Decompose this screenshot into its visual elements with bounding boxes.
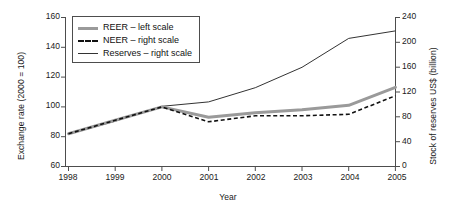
legend-label-reer: REER – left scale: [103, 22, 174, 32]
y-axis-right-ticks: [396, 18, 400, 167]
chart-legend: REER – left scale NEER – right scale Res…: [72, 16, 200, 63]
y-axis-left-ticks: [61, 18, 65, 167]
legend-swatch-reserves-icon: [78, 48, 98, 58]
legend-item-neer: NEER – right scale: [78, 33, 192, 46]
x-axis-ticks: [69, 167, 396, 171]
legend-item-reer: REER – left scale: [78, 20, 192, 33]
legend-label-reserves: Reserves – right scale: [103, 48, 192, 58]
chart-figure: Exchange rate (2000 = 100) Stock of rese…: [0, 0, 456, 211]
legend-swatch-reer-icon: [78, 22, 98, 32]
plot-canvas: [0, 0, 456, 211]
legend-swatch-neer-icon: [78, 35, 98, 45]
legend-label-neer: NEER – right scale: [103, 35, 179, 45]
legend-item-reserves: Reserves – right scale: [78, 46, 192, 59]
